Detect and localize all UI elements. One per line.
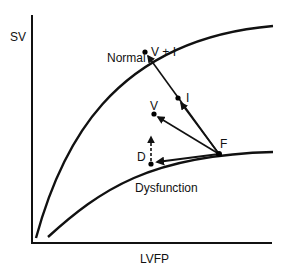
point-i-label: I	[186, 92, 189, 104]
point-v-plus-i-label: V + I	[151, 46, 176, 58]
point-f-label: F	[220, 138, 227, 150]
point-d	[148, 161, 153, 166]
arrow-f-to-i	[181, 103, 219, 154]
y-axis-label: SV	[10, 31, 26, 43]
x-axis-label: LVFP	[140, 253, 169, 265]
normal-curve-label: Normal	[107, 52, 146, 64]
dysfunction-curve-label: Dysfunction	[135, 182, 198, 194]
point-f	[216, 151, 222, 157]
point-d-label: D	[137, 151, 146, 163]
point-i	[175, 95, 180, 100]
arrow-f-to-v	[158, 117, 219, 154]
point-v-label: V	[150, 100, 158, 112]
frank-starling-diagram	[0, 0, 295, 269]
